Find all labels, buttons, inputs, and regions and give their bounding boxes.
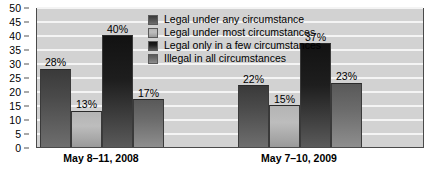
- y-axis-tick-mark: [24, 8, 29, 9]
- x-axis-group-label: May 7–10, 2009: [261, 152, 337, 164]
- legend: Legal under any circumstanceLegal under …: [148, 13, 321, 65]
- y-axis-tick-mark: [24, 106, 29, 107]
- y-axis-tick-mark: [24, 92, 29, 93]
- y-axis-tick-label: 35: [0, 45, 21, 56]
- legend-item-label: Legal only in a few circumstances: [164, 40, 321, 51]
- legend-item[interactable]: Illegal in all circumstances: [148, 52, 321, 65]
- y-axis-tick-mark: [24, 50, 29, 51]
- bar-value-label: 28%: [45, 57, 66, 68]
- y-axis-tick-label: 15: [0, 101, 21, 112]
- y-axis: 05101520253035404550: [0, 8, 30, 148]
- x-axis-group-label: May 8–11, 2008: [63, 152, 138, 164]
- y-axis-tick-label: 45: [0, 17, 21, 28]
- legend-item[interactable]: Legal under most circumstances: [148, 26, 321, 39]
- y-axis-tick-label: 25: [0, 73, 21, 84]
- y-axis-tick-label: 40: [0, 31, 21, 42]
- bar[interactable]: 13%: [71, 111, 102, 147]
- bar[interactable]: 40%: [102, 35, 133, 147]
- y-axis-tick-mark: [24, 22, 29, 23]
- y-axis-tick-label: 10: [0, 115, 21, 126]
- y-axis-tick-mark: [24, 134, 29, 135]
- bar[interactable]: 15%: [269, 105, 300, 147]
- y-axis-tick-label: 5: [0, 129, 21, 140]
- y-axis-tick-label: 20: [0, 87, 21, 98]
- bar-value-label: 15%: [274, 94, 295, 105]
- bar-group: 28%13%40%17%: [40, 8, 164, 147]
- bar-chart: 05101520253035404550 28%13%40%17%22%15%3…: [0, 0, 430, 176]
- bar[interactable]: 17%: [133, 99, 164, 147]
- bar-value-label: 17%: [138, 88, 159, 99]
- bar[interactable]: 22%: [238, 85, 269, 147]
- y-axis-tick-mark: [24, 64, 29, 65]
- y-axis-tick-mark: [24, 148, 29, 149]
- x-axis-labels: May 8–11, 2008May 7–10, 2009: [36, 152, 424, 172]
- y-axis-tick-mark: [24, 120, 29, 121]
- y-axis-tick-mark: [24, 36, 29, 37]
- y-axis-tick-label: 0: [0, 143, 21, 154]
- legend-item-label: Legal under most circumstances: [164, 27, 315, 38]
- legend-swatch-icon: [148, 41, 158, 51]
- bar-value-label: 40%: [107, 24, 128, 35]
- bar-value-label: 22%: [243, 74, 264, 85]
- legend-item[interactable]: Legal only in a few circumstances: [148, 39, 321, 52]
- legend-swatch-icon: [148, 15, 158, 25]
- bar[interactable]: 28%: [40, 69, 71, 147]
- legend-swatch-icon: [148, 54, 158, 64]
- legend-item-label: Illegal in all circumstances: [164, 53, 286, 64]
- bar-value-label: 23%: [336, 71, 357, 82]
- y-axis-tick-mark: [24, 78, 29, 79]
- bar[interactable]: 23%: [331, 83, 362, 147]
- bar-value-label: 13%: [76, 99, 97, 110]
- legend-item[interactable]: Legal under any circumstance: [148, 13, 321, 26]
- legend-swatch-icon: [148, 28, 158, 38]
- y-axis-tick-label: 30: [0, 59, 21, 70]
- legend-item-label: Legal under any circumstance: [164, 14, 304, 25]
- y-axis-tick-label: 50: [0, 3, 21, 14]
